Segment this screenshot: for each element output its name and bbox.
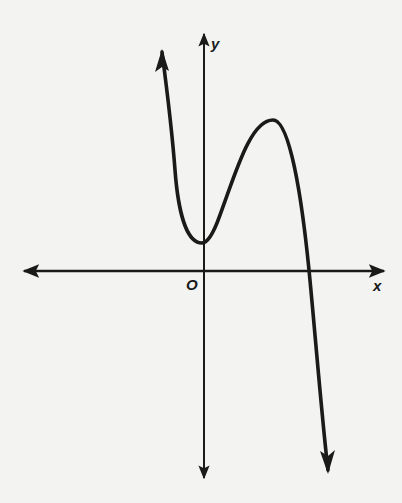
x-axis-label: x — [373, 278, 381, 293]
y-axis-label: y — [211, 36, 219, 51]
function-graph-figure: y x O — [0, 0, 402, 503]
curve-arrow-up-icon — [155, 49, 169, 72]
graph-canvas — [0, 0, 402, 503]
cubic-curve — [162, 52, 328, 470]
origin-label: O — [186, 277, 198, 292]
